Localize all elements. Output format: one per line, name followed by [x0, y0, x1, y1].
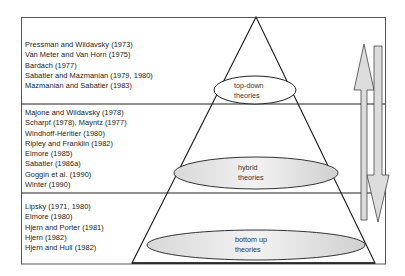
label-line: theories — [234, 91, 264, 101]
author-entry: Hjern and Porter (1981) — [25, 223, 104, 233]
author-list-hybrid: Majone and Wildavsky (1978) Scharpf (197… — [25, 108, 127, 190]
author-entry: Hjern and Hull (1982) — [25, 243, 104, 253]
label-line: bottom up — [235, 235, 267, 245]
label-line: theories — [235, 245, 267, 255]
author-entry: Winter (1990) — [25, 180, 127, 190]
label-hybrid-theories: hybrid theories — [238, 163, 264, 182]
author-entry: Ripley and Franklin (1982) — [25, 139, 127, 149]
author-entry: Sabatier (1986a) — [25, 159, 127, 169]
label-line: theories — [238, 173, 264, 183]
author-entry: Van Meter and Van Horn (1975) — [25, 50, 153, 60]
author-entry: Lipsky (1971, 1980) — [25, 202, 104, 212]
author-entry: Pressman and Wildavsky (1973) — [25, 40, 153, 50]
label-top-down-theories: top-down theories — [234, 81, 264, 100]
author-entry: Mazmanian and Sabatier (1983) — [25, 81, 153, 91]
author-entry: Bardach (1977) — [25, 61, 153, 71]
label-bottom-up-theories: bottom up theories — [235, 235, 267, 254]
author-entry: Scharpf (1978), Mayntz (1977) — [25, 118, 127, 128]
author-entry: Majone and Wildavsky (1978) — [25, 108, 127, 118]
author-entry: Elmore (1980) — [25, 212, 104, 222]
author-entry: Goggin et al. (1990) — [25, 170, 127, 180]
author-entry: Windhoff-Héritier (1980) — [25, 129, 127, 139]
pyramid-triangle — [132, 17, 375, 263]
author-entry: Elmore (1985) — [25, 149, 127, 159]
author-list-bottom-up: Lipsky (1971, 1980) Elmore (1980) Hjern … — [25, 202, 104, 253]
author-entry: Sabatier and Mazmanian (1979, 1980) — [25, 71, 153, 81]
author-entry: Hjern (1982) — [25, 233, 104, 243]
label-line: hybrid — [238, 163, 264, 173]
author-list-top-down: Pressman and Wildavsky (1973) Van Meter … — [25, 40, 153, 91]
label-line: top-down — [234, 81, 264, 91]
